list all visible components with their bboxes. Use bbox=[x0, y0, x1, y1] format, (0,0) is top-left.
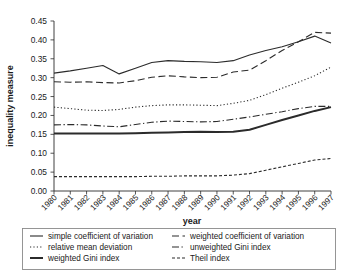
y-axis-label: inequality measure bbox=[5, 65, 15, 147]
legend-label-relative-mean-deviation: relative mean deviation bbox=[48, 243, 133, 252]
y-tick-label: 0.45 bbox=[31, 16, 48, 26]
y-tick-label: 0.05 bbox=[31, 167, 48, 177]
y-tick-label: 0.10 bbox=[31, 148, 48, 158]
legend-label-theil-index: Theil index bbox=[190, 254, 230, 263]
y-tick-label: 0.40 bbox=[31, 35, 48, 45]
legend-label-weighted-coefficient-of-variation: weighted coefficient of variation bbox=[189, 232, 305, 241]
legend-label-weighted-gini-index: weighted Gini index bbox=[47, 254, 119, 263]
y-tick-label: 0.15 bbox=[31, 129, 48, 139]
x-axis-label: year bbox=[183, 216, 202, 226]
inequality-measure-line-chart: 0.000.050.100.150.200.250.300.350.400.45… bbox=[0, 0, 346, 274]
legend-label-unweighted-gini-index: unweighted Gini index bbox=[190, 243, 271, 252]
y-tick-label: 0.00 bbox=[31, 186, 48, 196]
y-tick-label: 0.30 bbox=[31, 73, 48, 83]
chart-figure: 0.000.050.100.150.200.250.300.350.400.45… bbox=[0, 0, 346, 274]
y-tick-label: 0.35 bbox=[31, 54, 48, 64]
y-tick-label: 0.20 bbox=[31, 110, 48, 120]
y-tick-label: 0.25 bbox=[31, 92, 48, 102]
legend-label-simple-coefficient-of-variation: simple coefficient of variation bbox=[48, 232, 153, 241]
